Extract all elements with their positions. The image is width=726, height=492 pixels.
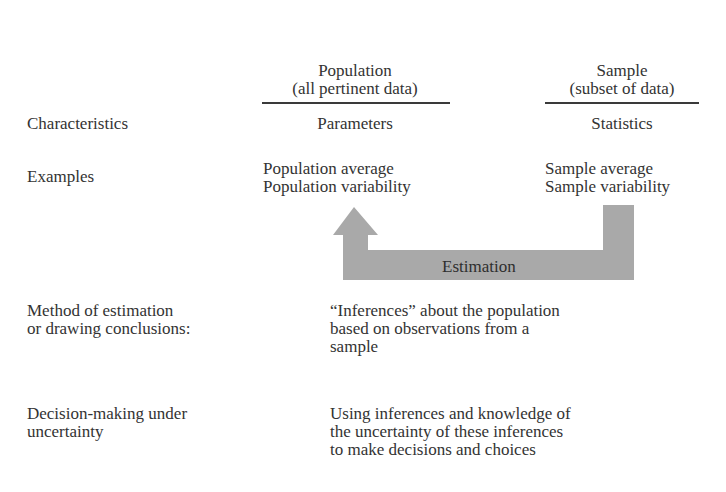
row-label-decision-line2: uncertainty [27, 423, 103, 441]
decision-description-line2: the uncertainty of these inferences [330, 423, 563, 441]
decision-description-line1: Using inferences and knowledge of [330, 405, 571, 423]
decision-description-line3: to make decisions and choices [330, 441, 536, 459]
method-description-line3: sample [330, 338, 378, 356]
method-description-line1: “Inferences” about the population [330, 302, 560, 320]
estimation-label: Estimation [442, 258, 516, 276]
row-label-method-line2: or drawing conclusions: [27, 320, 190, 338]
row-label-decision-line1: Decision-making under [27, 405, 187, 423]
row-label-method-line1: Method of estimation [27, 302, 173, 320]
method-description-line2: based on observations from a [330, 320, 529, 338]
